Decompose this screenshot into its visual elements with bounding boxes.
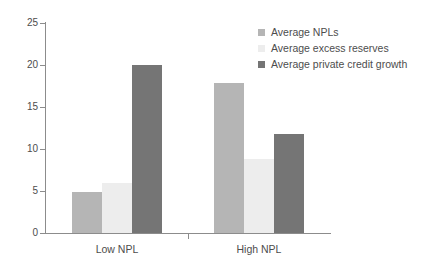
y-axis-tick-label-wrap: 0: [0, 228, 38, 238]
bar: [102, 183, 132, 233]
y-axis-tick: [40, 191, 45, 192]
y-axis-tick: [40, 149, 45, 150]
legend-item: Average excess reserves: [258, 42, 407, 54]
y-axis-tick-label: 10: [4, 144, 38, 154]
legend-item: Average private credit growth: [258, 58, 407, 70]
bar: [214, 83, 244, 233]
y-axis-tick-label-wrap: 20: [0, 60, 38, 70]
legend-swatch-icon: [258, 61, 265, 68]
y-axis-tick-label-wrap: 10: [0, 144, 38, 154]
y-axis-tick: [40, 107, 45, 108]
y-axis-tick-label-wrap: 25: [0, 18, 38, 28]
legend-item-label: Average private credit growth: [271, 58, 407, 70]
y-axis-tick: [40, 233, 45, 234]
y-axis-tick-label-wrap: 5: [0, 186, 38, 196]
y-axis-tick: [40, 65, 45, 66]
x-axis-tick: [188, 234, 189, 239]
chart-legend: Average NPLsAverage excess reservesAvera…: [258, 26, 407, 70]
bar: [72, 192, 102, 233]
y-axis-tick-label-wrap: 15: [0, 102, 38, 112]
y-axis-tick-label: 5: [4, 186, 38, 196]
y-axis-tick-label: 20: [4, 60, 38, 70]
bar: [132, 65, 162, 233]
legend-swatch-icon: [258, 29, 265, 36]
bar: [274, 134, 304, 233]
legend-swatch-icon: [258, 45, 265, 52]
legend-item-label: Average NPLs: [271, 26, 339, 38]
legend-item-label: Average excess reserves: [271, 42, 389, 54]
bar-chart: 0510152025 Low NPLHigh NPL Average NPLsA…: [0, 0, 429, 274]
x-axis-category-label: Low NPL: [67, 243, 167, 255]
x-axis-category-label: High NPL: [209, 243, 309, 255]
y-axis-tick-label: 0: [4, 228, 38, 238]
y-axis-tick-label: 25: [4, 18, 38, 28]
bar: [244, 159, 274, 233]
y-axis-tick: [40, 23, 45, 24]
legend-item: Average NPLs: [258, 26, 407, 38]
y-axis-tick-label: 15: [4, 102, 38, 112]
